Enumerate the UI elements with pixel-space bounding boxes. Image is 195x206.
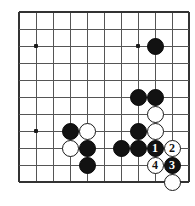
black-stone-c4r9 bbox=[79, 157, 96, 174]
black-stone-c8r5 bbox=[147, 89, 164, 106]
star-point-lower-left bbox=[34, 129, 38, 133]
black-stone-c7r8 bbox=[130, 140, 147, 157]
black-stone-upper-right bbox=[147, 38, 164, 55]
white-stone-c9r10 bbox=[164, 174, 181, 191]
star-point-upper-right bbox=[136, 44, 140, 48]
black-stone-c7r5 bbox=[130, 89, 147, 106]
white-stone-c4r7 bbox=[79, 123, 96, 140]
move-number-label: 4 bbox=[152, 159, 158, 171]
board-surface: 1243 bbox=[0, 0, 195, 206]
go-board-diagram: 1243 bbox=[0, 0, 195, 206]
board-grid bbox=[0, 0, 195, 206]
black-stone-move-3: 3 bbox=[164, 157, 181, 174]
star-point-left bbox=[34, 44, 38, 48]
black-stone-c3r7 bbox=[62, 123, 79, 140]
white-stone-move-4: 4 bbox=[147, 157, 164, 174]
white-stone-c3r8 bbox=[62, 140, 79, 157]
white-stone-c8r6 bbox=[147, 106, 164, 123]
black-stone-c7r7 bbox=[130, 123, 147, 140]
move-number-label: 3 bbox=[169, 159, 175, 171]
move-number-label: 2 bbox=[169, 142, 175, 154]
white-stone-move-2: 2 bbox=[164, 140, 181, 157]
move-number-label: 1 bbox=[152, 142, 158, 154]
white-stone-c8r7 bbox=[147, 123, 164, 140]
black-stone-move-1: 1 bbox=[147, 140, 164, 157]
black-stone-c6r8 bbox=[113, 140, 130, 157]
black-stone-c4r8 bbox=[79, 140, 96, 157]
